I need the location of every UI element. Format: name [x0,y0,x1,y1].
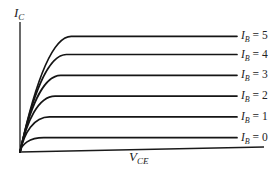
curve-ib-2 [20,96,237,152]
curve-label-ib-4: IB = 4 [240,48,268,63]
curve-label-ib-0: IB = 0 [240,131,268,146]
x-axis-label: VCE [129,149,149,166]
y-axis-label: IC [13,5,25,22]
curve-ib-1 [20,117,237,152]
curve-group [20,36,237,152]
transistor-characteristics-chart: IC VCE IB = 0IB = 1IB = 2IB = 3IB = 4IB … [0,0,278,172]
curve-label-ib-5: IB = 5 [240,29,268,44]
y-axis-label-sub: C [18,12,25,22]
curve-label-ib-3: IB = 3 [240,68,268,83]
x-axis-label-sub: CE [137,156,149,166]
curve-label-ib-1: IB = 1 [240,110,268,125]
curve-label-ib-2: IB = 2 [240,89,268,104]
x-axis [20,147,264,152]
curve-labels: IB = 0IB = 1IB = 2IB = 3IB = 4IB = 5 [240,29,268,145]
curve-ib-3 [20,75,237,152]
